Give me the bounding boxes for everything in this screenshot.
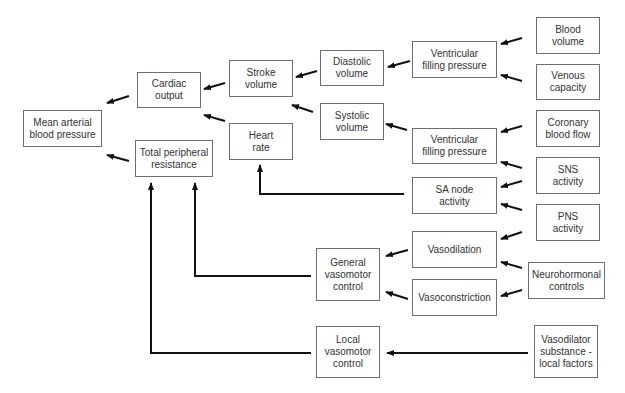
arrow-pns-to-sa (501, 204, 522, 210)
node-vfp1: Ventricular filling pressure (412, 41, 497, 78)
node-hr: Heart rate (229, 123, 293, 160)
arrow-vcon-to-gvc (386, 292, 408, 299)
arrow-sysv-to-sv (292, 105, 313, 112)
connector-layer (0, 0, 625, 393)
node-map: Mean arterial blood pressure (23, 110, 102, 147)
node-vfp2: Ventricular filling pressure (412, 128, 497, 164)
blood-pressure-regulation-diagram: Mean arterial blood pressureCardiac outp… (0, 0, 625, 393)
arrow-bv-to-vfp1 (501, 38, 522, 44)
arrow-tpr-to-map (107, 155, 129, 161)
node-vsub: Vasodilator substance - local factors (534, 325, 598, 378)
arrow-vdil-to-gvc (386, 250, 408, 256)
arrow-sns-to-vfp2 (501, 162, 522, 168)
node-sa: SA node activity (412, 177, 497, 214)
node-lvc: Local vasomotor control (316, 326, 380, 378)
arrow-cbf-to-vfp2 (501, 126, 522, 132)
arrow-hr-to-co (204, 115, 225, 121)
arrow-nh-to-vcon (501, 290, 522, 296)
node-co: Cardiac output (137, 72, 201, 108)
node-vdil: Vasodilation (412, 231, 497, 268)
connector-gvc-to-tpr (195, 183, 311, 276)
node-vcon: Vasoconstriction (412, 279, 497, 316)
node-bv: Blood volume (536, 17, 600, 54)
arrow-dv-to-sv (296, 71, 317, 77)
node-vc: Venous capacity (536, 64, 600, 100)
arrow-vfp1-to-dv (388, 61, 410, 67)
arrow-co-to-map (107, 96, 129, 103)
arrow-vfp2-to-sysv (386, 124, 407, 130)
node-nh: Neurohormonal controls (528, 262, 605, 299)
arrow-nh-to-vdil (501, 262, 522, 268)
node-tpr: Total peripheral resistance (135, 140, 213, 177)
node-sv: Stroke volume (229, 60, 293, 97)
node-dv: Diastolic volume (320, 50, 384, 86)
arrow-pns-to-vdil (501, 232, 522, 239)
node-gvc: General vasomotor control (316, 248, 380, 301)
node-sysv: Systolic volume (320, 103, 384, 140)
arrow-vc-to-vfp1 (501, 75, 522, 81)
node-sns: SNS activity (536, 157, 600, 194)
arrow-sns-to-sa (501, 181, 522, 187)
node-cbf: Coronary blood flow (536, 110, 600, 147)
arrow-sv-to-co (204, 83, 225, 89)
connector-sa-to-hr (260, 165, 404, 194)
connector-lvc-to-tpr (151, 183, 311, 353)
node-pns: PNS activity (536, 204, 600, 241)
